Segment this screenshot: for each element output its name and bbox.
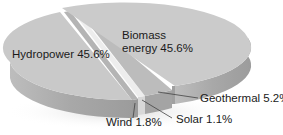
label-biomass-line1: Biomass (122, 29, 166, 42)
pie-chart: Hydropower 45.6% Biomass energy 45.6% Ge… (0, 0, 283, 135)
label-geothermal: Geothermal 5.2% (200, 92, 283, 105)
label-solar: Solar 1.1% (176, 113, 232, 126)
label-hydropower: Hydropower 45.6% (12, 48, 110, 61)
label-biomass-line2: energy 45.6% (122, 42, 193, 55)
pie-chart-graphic (0, 0, 283, 135)
label-wind: Wind 1.8% (106, 116, 162, 129)
